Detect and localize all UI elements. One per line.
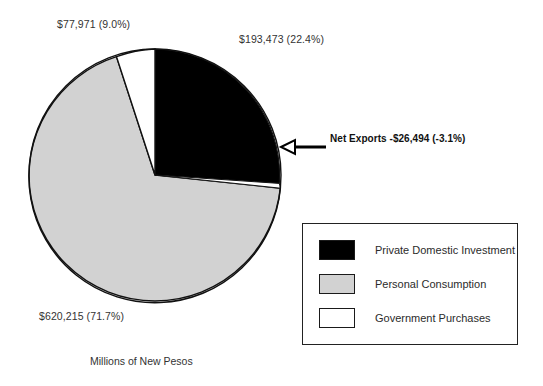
legend-swatch-government-purchases xyxy=(319,308,355,328)
legend-item-private-domestic-investment: Private Domestic Investment xyxy=(319,233,517,267)
label-net-exports: Net Exports -$26,494 (-3.1%) xyxy=(330,133,465,144)
pie-chart-figure: $77,971 (9.0%) $193,473 (22.4%) $620,215… xyxy=(0,0,543,386)
label-government-purchases: $77,971 (9.0%) xyxy=(57,18,130,30)
legend-item-personal-consumption: Personal Consumption xyxy=(319,267,517,301)
legend-swatch-personal-consumption xyxy=(319,274,355,294)
legend-swatch-private-domestic-investment xyxy=(319,240,355,260)
legend-label-private-domestic-investment: Private Domestic Investment xyxy=(375,244,515,256)
legend-label-personal-consumption: Personal Consumption xyxy=(375,278,486,290)
label-private-domestic-investment: $193,473 (22.4%) xyxy=(239,33,324,45)
chart-caption: Millions of New Pesos xyxy=(90,355,193,367)
net-exports-callout-arrow xyxy=(281,140,326,154)
chart-legend: Private Domestic Investment Personal Con… xyxy=(302,223,518,345)
legend-item-government-purchases: Government Purchases xyxy=(319,301,517,335)
legend-label-government-purchases: Government Purchases xyxy=(375,312,491,324)
label-personal-consumption: $620,215 (71.7%) xyxy=(39,310,124,322)
pie-slice-private-domestic-investment xyxy=(155,49,280,183)
